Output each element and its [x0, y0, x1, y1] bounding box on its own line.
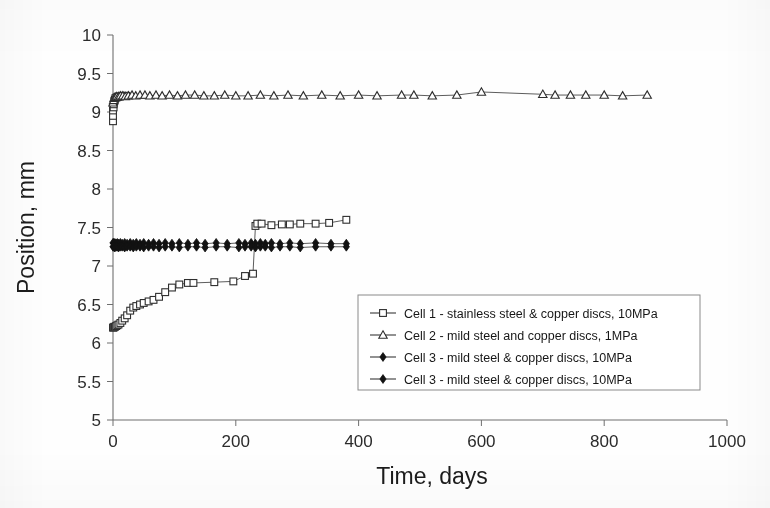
data-point-marker [582, 91, 590, 98]
data-point-marker [312, 220, 319, 227]
y-axis-tick-label: 6.5 [77, 296, 101, 315]
y-axis-tick-label: 7.5 [77, 219, 101, 238]
y-axis-tick-label: 8.5 [77, 142, 101, 161]
data-point-marker [162, 289, 169, 296]
chart-canvas: 55.566.577.588.599.51002004006008001000T… [0, 0, 770, 508]
data-point-marker [250, 270, 257, 277]
x-axis-tick-label: 200 [222, 432, 250, 451]
data-point-marker [643, 91, 651, 98]
data-point-marker [297, 220, 304, 227]
y-axis-tick-label: 5.5 [77, 373, 101, 392]
data-point-marker [230, 278, 237, 285]
data-point-marker [326, 219, 333, 226]
chart-figure: 55.566.577.588.599.51002004006008001000T… [0, 0, 770, 508]
data-point-marker [410, 91, 418, 98]
x-axis-tick-label: 0 [108, 432, 117, 451]
y-axis-tick-label: 9 [92, 103, 101, 122]
data-point-marker [221, 91, 229, 98]
y-axis-tick-label: 8 [92, 180, 101, 199]
data-series-3 [109, 88, 652, 106]
legend-item-2[interactable]: Cell 2 - mild steel and copper discs, 1M… [370, 329, 637, 343]
data-point-marker [318, 91, 326, 98]
y-axis-tick-label: 7 [92, 257, 101, 276]
data-point-marker [600, 91, 608, 98]
x-axis-tick-label: 1000 [708, 432, 746, 451]
data-point-marker [165, 91, 173, 98]
y-axis-title: Position, mm [13, 161, 39, 294]
data-point-marker [256, 91, 264, 98]
legend-item-4[interactable]: Cell 3 - mild steel & copper discs, 10MP… [370, 373, 632, 387]
data-series-1 [110, 216, 350, 331]
y-axis-tick-label: 5 [92, 411, 101, 430]
legend-label: Cell 1 - stainless steel & copper discs,… [404, 307, 658, 321]
series-line [113, 220, 346, 328]
legend-label: Cell 3 - mild steel & copper discs, 10MP… [404, 373, 632, 387]
y-axis-tick-label: 10 [82, 26, 101, 45]
data-point-marker [169, 284, 176, 291]
data-point-marker [566, 91, 574, 98]
data-point-marker [354, 91, 362, 98]
data-point-marker [176, 281, 183, 288]
data-point-marker [278, 221, 285, 228]
data-point-marker [190, 91, 198, 98]
data-point-marker [380, 310, 387, 317]
x-axis-tick-label: 800 [590, 432, 618, 451]
x-axis-tick-label: 600 [467, 432, 495, 451]
data-point-marker [211, 279, 218, 286]
data-point-marker [397, 91, 405, 98]
data-point-marker [286, 221, 293, 228]
legend-item-3[interactable]: Cell 3 - mild steel & copper discs, 10MP… [370, 351, 632, 365]
x-axis-tick-label: 400 [344, 432, 372, 451]
data-point-marker [477, 88, 485, 95]
data-point-marker [284, 91, 292, 98]
chart-legend: Cell 1 - stainless steel & copper discs,… [358, 295, 700, 390]
data-point-marker [258, 220, 265, 227]
data-point-marker [343, 216, 350, 223]
data-point-marker [181, 91, 189, 98]
legend-label: Cell 2 - mild steel and copper discs, 1M… [404, 329, 637, 343]
x-axis-title: Time, days [376, 463, 488, 489]
legend-item-1[interactable]: Cell 1 - stainless steel & copper discs,… [370, 307, 658, 321]
y-axis-tick-label: 6 [92, 334, 101, 353]
data-point-marker [190, 280, 197, 287]
data-point-marker [268, 222, 275, 229]
y-axis-tick-label: 9.5 [77, 65, 101, 84]
legend-label: Cell 3 - mild steel & copper discs, 10MP… [404, 351, 632, 365]
data-point-marker [242, 273, 249, 280]
